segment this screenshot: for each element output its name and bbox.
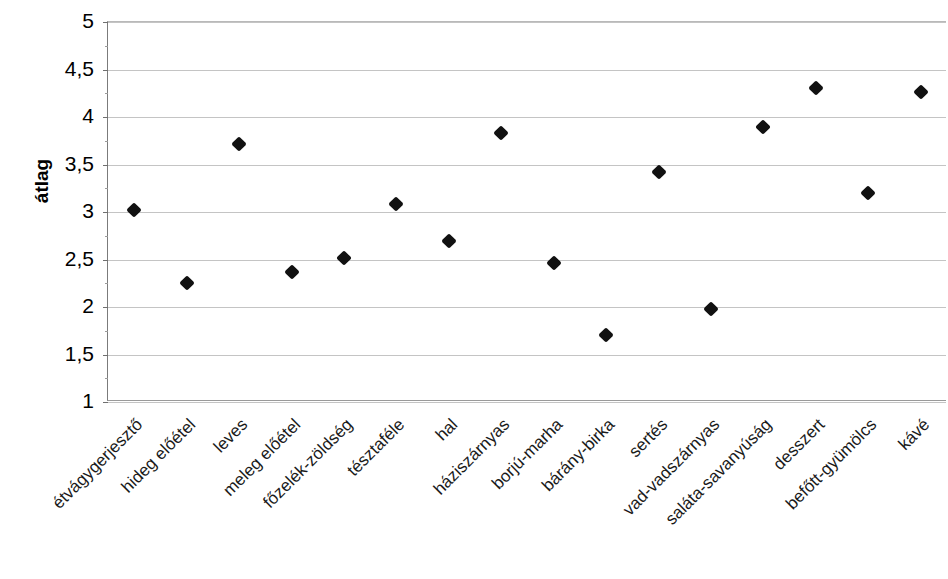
data-point: [284, 264, 300, 280]
data-point: [756, 119, 772, 135]
x-axis-tick-label-wrapper: hal: [448, 416, 461, 429]
gridline: [108, 212, 946, 213]
y-axis-tick-label: 5: [42, 10, 94, 31]
x-axis-tick-label-wrapper: hideg előétel: [186, 416, 199, 429]
data-point: [808, 80, 824, 96]
y-axis-tick: [103, 260, 108, 261]
x-axis-tick-label: meleg előétel: [220, 416, 304, 500]
x-axis-tick-label-wrapper: befőtt-gyümölcs: [868, 416, 881, 429]
y-axis-tick: [103, 402, 108, 403]
y-axis-tick-label: 2,5: [42, 248, 94, 269]
data-point: [861, 185, 877, 201]
x-axis-tick-label-wrapper: tésztaféle: [396, 416, 409, 429]
x-axis-tick-label-wrapper: desszert: [816, 416, 829, 429]
x-axis-tick-label: étvágygerjesztő: [50, 416, 147, 513]
x-axis-tick-label: vad-vadszárnyas: [620, 416, 724, 520]
x-axis-tick-label-wrapper: vad-vadszárnyas: [711, 416, 724, 429]
y-axis-tick-label: 4: [42, 105, 94, 126]
data-point: [703, 301, 719, 317]
data-point: [126, 202, 142, 218]
gridline: [108, 117, 946, 118]
y-axis-tick: [103, 22, 108, 23]
data-point: [598, 327, 614, 343]
y-axis-tick-label: 3: [42, 200, 94, 221]
y-axis-minor-tick: [105, 141, 108, 142]
y-axis-tick-label: 1,5: [42, 343, 94, 364]
y-axis-minor-tick: [105, 331, 108, 332]
y-axis-tick-label: 3,5: [42, 153, 94, 174]
x-axis-tick-label-wrapper: saláta-savanyúság: [763, 416, 776, 429]
y-axis-minor-tick: [105, 93, 108, 94]
gridline: [108, 402, 946, 403]
x-axis-tick-label-wrapper: bárány-birka: [606, 416, 619, 429]
gridline: [108, 22, 946, 23]
y-axis-tick-label: 4,5: [42, 58, 94, 79]
y-axis-tick: [103, 355, 108, 356]
x-axis-tick-label: hal: [432, 416, 461, 445]
data-point: [389, 197, 405, 213]
x-axis-tick-label: tésztaféle: [345, 416, 409, 480]
y-axis-minor-tick: [105, 283, 108, 284]
y-axis-tick: [103, 212, 108, 213]
y-axis-minor-tick: [105, 236, 108, 237]
data-point: [494, 125, 510, 141]
x-axis-tick-label-wrapper: kávé: [920, 416, 933, 429]
data-point: [231, 136, 247, 152]
data-point: [913, 85, 929, 101]
x-axis-tick-label-wrapper: sertés: [658, 416, 671, 429]
x-axis-tick-label-wrapper: leves: [239, 416, 252, 429]
data-point: [651, 164, 667, 180]
x-axis-tick-label: desszert: [770, 416, 828, 474]
plot-area: [107, 21, 946, 401]
gridline: [108, 260, 946, 261]
x-axis-tick-label: főzelék-zöldség: [260, 416, 356, 512]
y-axis-tick-label: 1: [42, 390, 94, 411]
y-axis-tick-label: 2: [42, 295, 94, 316]
data-point: [179, 275, 195, 291]
gridline: [108, 307, 946, 308]
x-axis-tick-label: saláta-savanyúság: [663, 416, 776, 529]
data-point: [336, 250, 352, 266]
y-axis-minor-tick: [105, 378, 108, 379]
x-axis-tick-label-wrapper: háziszárnyas: [501, 416, 514, 429]
x-axis-tick-label-wrapper: meleg előétel: [291, 416, 304, 429]
y-axis-tick: [103, 165, 108, 166]
x-axis-tick-label: befőtt-gyümölcs: [783, 416, 881, 514]
data-point: [546, 256, 562, 272]
x-axis-tick-label-wrapper: étvágygerjesztő: [134, 416, 147, 429]
y-axis-minor-tick: [105, 188, 108, 189]
scatter-chart: átlag 54,543,532,521,51 étvágygerjesztőh…: [0, 0, 948, 579]
y-axis-tick: [103, 70, 108, 71]
gridline: [108, 165, 946, 166]
x-axis-tick-label: háziszárnyas: [431, 416, 514, 499]
y-axis-tick: [103, 307, 108, 308]
x-axis-tick-label: hideg előétel: [118, 416, 199, 497]
x-axis-tick-label-wrapper: borjú-marha: [553, 416, 566, 429]
data-point: [441, 234, 457, 250]
y-axis-minor-tick: [105, 46, 108, 47]
x-axis-tick-label: bárány-birka: [539, 416, 619, 496]
x-axis-tick-label: borjú-marha: [489, 416, 567, 494]
y-axis-tick-labels: 54,543,532,521,51: [34, 0, 94, 420]
x-axis-tick-label: kávé: [895, 416, 933, 454]
x-axis-tick-label-wrapper: főzelék-zöldség: [344, 416, 357, 429]
x-axis-tick-label: leves: [211, 416, 252, 457]
x-axis-tick-label: sertés: [625, 416, 670, 461]
y-axis-tick: [103, 117, 108, 118]
gridline: [108, 355, 946, 356]
gridline: [108, 70, 946, 71]
